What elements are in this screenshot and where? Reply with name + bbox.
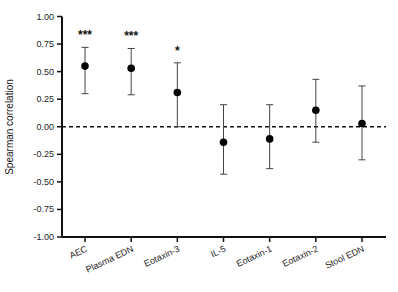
significance-marker: *** (78, 28, 92, 42)
y-tick-label: -0.75 (33, 204, 54, 214)
data-point-marker (81, 62, 89, 70)
x-category-label: Eotaxin-2 (281, 244, 320, 269)
y-tick-label: 0.00 (36, 122, 54, 132)
error-bar-point (358, 86, 366, 160)
y-axis: 1.000.750.500.250.00-0.25-0.50-0.75-1.00 (33, 12, 62, 243)
data-points: ******* (78, 28, 366, 174)
error-bar-point: *** (78, 28, 92, 93)
x-category-label: Plasma EDN (84, 244, 135, 275)
y-tick-label: -0.50 (33, 177, 54, 187)
data-point-marker (220, 138, 228, 146)
data-point-marker (312, 106, 320, 114)
x-category-label: AEC (68, 244, 89, 261)
error-bar-point (220, 105, 228, 174)
data-point-marker (358, 120, 366, 128)
data-point-marker (127, 65, 135, 73)
y-tick-label: -0.25 (33, 149, 54, 159)
error-bar-point: *** (124, 29, 138, 94)
significance-marker: *** (124, 29, 138, 43)
spearman-correlation-chart: 1.000.750.500.250.00-0.25-0.50-0.75-1.00… (0, 0, 398, 292)
x-category-label: Eotaxin-3 (142, 244, 181, 269)
data-point-marker (174, 89, 182, 97)
x-axis: AECPlasma EDNEotaxin-3IL-5Eotaxin-1Eotax… (62, 237, 386, 275)
x-category-label: Stool EDN (324, 244, 366, 271)
y-tick-label: 1.00 (36, 12, 54, 22)
data-point-marker (266, 135, 274, 143)
x-category-label: IL-5 (209, 244, 227, 260)
y-tick-label: -1.00 (33, 232, 54, 242)
y-tick-label: 0.50 (36, 67, 54, 77)
error-bar-point (266, 105, 274, 169)
y-tick-label: 0.75 (36, 39, 54, 49)
y-axis-label: Spearman correlation (4, 79, 15, 175)
error-bar-point (312, 79, 320, 142)
x-category-label: Eotaxin-1 (235, 244, 274, 269)
error-bar-point: * (174, 44, 182, 127)
y-tick-label: 0.25 (36, 94, 54, 104)
significance-marker: * (175, 44, 180, 58)
